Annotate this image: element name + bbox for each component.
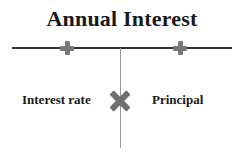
plus-icon-right [173,41,187,55]
horizontal-divider-line [12,47,232,49]
principal-label: Principal [152,92,203,108]
diagram-title: Annual Interest [0,6,244,32]
multiply-icon [110,91,130,111]
plus-icon-left [60,41,74,55]
interest-rate-label: Interest rate [22,92,91,108]
